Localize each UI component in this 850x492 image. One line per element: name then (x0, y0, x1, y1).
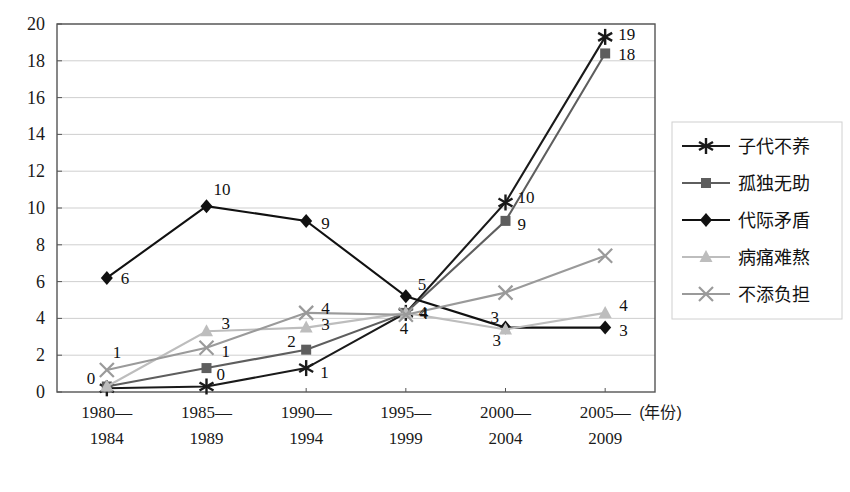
data-point-label: 10 (518, 188, 535, 207)
x-tick-label: 2005— (580, 403, 632, 422)
y-tick-label: 4 (36, 308, 45, 328)
chart-container: 20181614121086420 1980—19841985—19891990… (0, 0, 850, 492)
data-point-label: 4 (420, 304, 429, 323)
chart-legend[interactable]: 子代不养孤独无助代际矛盾病痛难熬不添负担 (672, 122, 842, 319)
data-point-label: 18 (618, 45, 635, 64)
x-tick-label: 1995— (380, 403, 432, 422)
data-point-marker (501, 216, 511, 226)
data-point-label: 1 (320, 363, 329, 382)
x-tick-label: 1980— (81, 403, 133, 422)
y-tick-label: 18 (27, 51, 45, 71)
data-point-label: 3 (222, 314, 231, 333)
data-point-label: 19 (618, 25, 635, 44)
y-tick-label: 10 (27, 198, 45, 218)
y-tick-label: 2 (36, 345, 45, 365)
data-point-marker (202, 363, 212, 373)
data-point-label: 3 (491, 308, 500, 327)
data-point-label: 10 (214, 180, 231, 199)
x-tick-label: 1994 (289, 429, 324, 448)
data-point-label: 3 (619, 321, 628, 340)
data-point-label: 4 (400, 319, 409, 338)
y-tick-label: 14 (27, 124, 45, 144)
y-tick-label: 12 (27, 161, 45, 181)
x-tick-label: 1985— (181, 403, 233, 422)
data-point-marker (301, 345, 311, 355)
data-point-label: 2 (287, 332, 296, 351)
data-point-label: 0 (87, 369, 96, 388)
data-point-label: 0 (217, 365, 226, 384)
x-tick-label: 1999 (389, 429, 423, 448)
y-tick-label: 6 (36, 272, 45, 292)
x-tick-label: 1984 (90, 429, 125, 448)
y-tick-label: 8 (36, 235, 45, 255)
y-tick-label: 20 (27, 14, 45, 34)
legend-item-label: 病痛难熬 (738, 248, 810, 268)
data-point-label: 1 (113, 343, 122, 362)
x-tick-label: 2009 (588, 429, 622, 448)
data-point-label: 9 (518, 215, 527, 234)
data-point-label: 4 (321, 299, 330, 318)
data-point-label: 3 (493, 331, 502, 350)
data-point-label: 6 (121, 269, 130, 288)
y-tick-label: 16 (27, 88, 45, 108)
legend-item-label: 代际矛盾 (738, 211, 810, 231)
x-axis-unit-label: (年份) (639, 404, 682, 421)
legend-item-label: 不添负担 (738, 285, 810, 305)
x-tick-label: 1989 (190, 429, 224, 448)
x-tick-label: 2000— (480, 403, 532, 422)
data-point-label: 9 (321, 214, 330, 233)
y-tick-label: 0 (36, 382, 45, 402)
legend-marker-square (701, 178, 711, 188)
data-point-marker (600, 48, 610, 58)
x-tick-label: 2004 (489, 429, 524, 448)
x-tick-label: 1990— (281, 403, 333, 422)
legend-item-label: 孤独无助 (738, 174, 810, 194)
legend-item-label: 子代不养 (738, 137, 810, 157)
data-point-label: 5 (418, 275, 427, 294)
data-point-label: 1 (222, 342, 231, 361)
line-chart: 20181614121086420 1980—19841985—19891990… (0, 0, 850, 492)
data-point-label: 4 (619, 296, 628, 315)
